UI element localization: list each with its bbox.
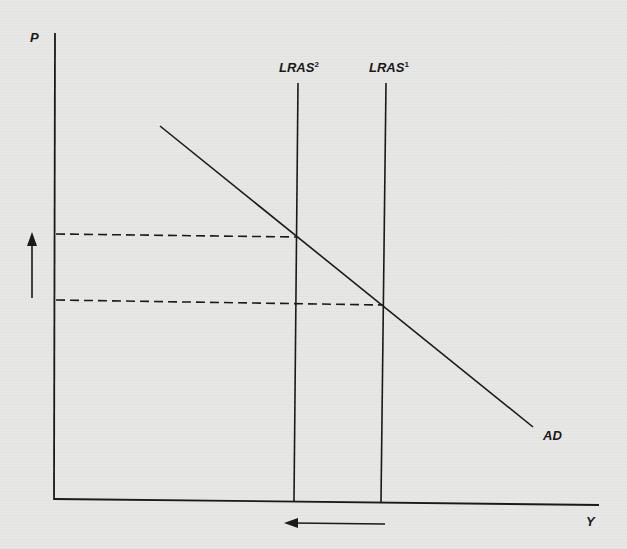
output-fall-arrow [292, 523, 385, 524]
lras1-curve [381, 83, 386, 502]
price-line-upper [56, 234, 297, 237]
ad-lras-diagram [0, 0, 627, 549]
ad-curve [160, 126, 533, 427]
price-line-lower [56, 300, 383, 305]
lras2-label: LRAS2 [279, 60, 319, 75]
p-axis-label: P [30, 30, 39, 45]
arrow-left-icon [284, 518, 298, 528]
lras1-label: LRAS1 [369, 60, 409, 75]
y-axis [54, 499, 599, 505]
p-axis [54, 33, 55, 500]
ad-label: AD [543, 428, 562, 443]
lras2-curve [294, 83, 298, 501]
y-axis-label: Y [586, 514, 595, 529]
arrow-up-icon [27, 232, 37, 246]
